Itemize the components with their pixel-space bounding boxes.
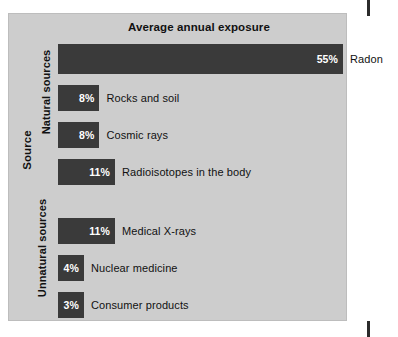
- bar: 8%: [58, 122, 99, 148]
- bar: 3%: [58, 292, 84, 318]
- bar-row: 8% Cosmic rays: [58, 122, 346, 148]
- axis-label-source: Source: [21, 110, 33, 190]
- bar-value: 3%: [64, 299, 84, 311]
- bar-row: 4% Nuclear medicine: [58, 255, 346, 281]
- group-label-natural-sources: Natural sources: [40, 17, 52, 167]
- bar-row: 55% Radon: [58, 44, 346, 74]
- bar-label: Radon: [350, 44, 383, 74]
- bar-row: 3% Consumer products: [58, 292, 346, 318]
- bar: 55%: [58, 44, 343, 74]
- bar-label: Nuclear medicine: [91, 255, 178, 281]
- bar-row: 11% Radioisotopes in the body: [58, 159, 346, 185]
- bar: 11%: [58, 218, 115, 244]
- bar-label: Rocks and soil: [106, 85, 179, 111]
- bar-value: 11%: [89, 225, 115, 237]
- bar-value: 55%: [317, 53, 343, 65]
- bar-value: 11%: [89, 166, 115, 178]
- bar-row: 11% Medical X-rays: [58, 218, 346, 244]
- bar-value: 8%: [79, 92, 99, 104]
- bar: 11%: [58, 159, 115, 185]
- plot-area: 55% Radon 8% Rocks and soil 8% Cosmic ra…: [58, 44, 346, 320]
- bar-label: Cosmic rays: [106, 122, 168, 148]
- bar-row: 8% Rocks and soil: [58, 85, 346, 111]
- bar-value: 8%: [79, 129, 99, 141]
- registration-mark-bottom: [367, 321, 370, 337]
- chart-panel: Average annual exposure Source Natural s…: [8, 13, 347, 321]
- bar: 4%: [58, 255, 84, 281]
- bar-label: Radioisotopes in the body: [122, 159, 251, 185]
- group-label-unnatural-sources: Unnatural sources: [36, 173, 48, 323]
- chart-title: Average annual exposure: [59, 21, 339, 33]
- bar-value: 4%: [64, 262, 84, 274]
- registration-mark-top: [367, 0, 370, 16]
- bar-label: Consumer products: [91, 292, 189, 318]
- bar: 8%: [58, 85, 99, 111]
- bar-label: Medical X-rays: [122, 218, 196, 244]
